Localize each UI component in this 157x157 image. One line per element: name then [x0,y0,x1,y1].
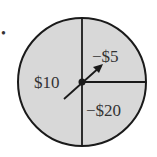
bullet-marker: • [1,26,6,41]
section-label-neg20: −$20 [86,101,121,120]
spinner-diagram: • $10 −$5 −$20 [0,0,157,157]
section-label-neg5: −$5 [92,47,119,66]
section-label-10: $10 [34,73,60,92]
pivot-dot [79,79,86,86]
